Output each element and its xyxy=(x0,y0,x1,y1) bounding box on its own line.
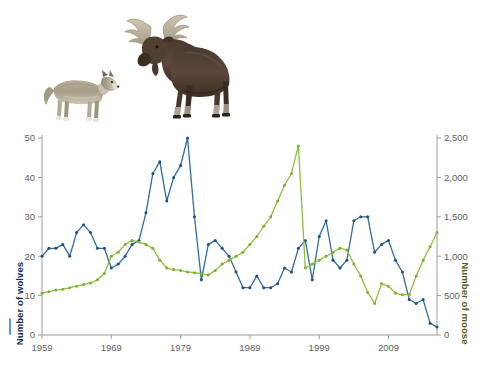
moose-data-point xyxy=(82,283,85,286)
wolves-data-point xyxy=(75,231,78,234)
wolves-data-point xyxy=(352,219,355,222)
right-tick-label: 500 xyxy=(444,290,460,301)
left-tick-label: 40 xyxy=(24,172,35,183)
moose-data-point xyxy=(394,292,397,295)
wolves-data-point xyxy=(283,267,286,270)
wolf-moose-population-figure: 0102030405005001,0001,5002,0002,50019591… xyxy=(0,0,485,368)
moose-data-point xyxy=(110,255,113,258)
x-tick-label: 1969 xyxy=(101,342,122,353)
wolves-data-point xyxy=(117,263,120,266)
wolves-data-point xyxy=(248,286,251,289)
wolves-data-point xyxy=(103,247,106,250)
wolves-data-point xyxy=(68,255,71,258)
wolves-data-point xyxy=(325,219,328,222)
wolves-data-point xyxy=(332,259,335,262)
wolves-data-point xyxy=(131,243,134,246)
wolves-data-point xyxy=(387,239,390,242)
moose-data-point xyxy=(401,293,404,296)
x-tick-label: 2009 xyxy=(378,342,399,353)
wolves-series-line xyxy=(42,138,437,327)
wolves-data-point xyxy=(214,239,217,242)
wolves-data-point xyxy=(276,282,279,285)
x-tick-label: 1989 xyxy=(239,342,260,353)
moose-data-point xyxy=(235,255,238,258)
wolves-data-point xyxy=(158,160,161,163)
moose-data-point xyxy=(54,289,57,292)
wolves-data-point xyxy=(228,255,231,258)
moose-data-point xyxy=(345,248,348,251)
moose-data-point xyxy=(269,215,272,218)
wolves-data-point xyxy=(338,267,341,270)
wolves-data-point xyxy=(318,235,321,238)
wolves-data-point xyxy=(359,215,362,218)
moose-data-point xyxy=(131,239,134,242)
right-tick-label: 2,000 xyxy=(444,172,468,183)
moose-data-point xyxy=(68,286,71,289)
wolves-data-point xyxy=(124,255,127,258)
wolves-data-point xyxy=(82,223,85,226)
moose-data-point xyxy=(241,251,244,254)
moose-data-point xyxy=(262,225,265,228)
moose-data-point xyxy=(387,285,390,288)
illustration-band xyxy=(0,0,485,130)
moose-data-point xyxy=(138,241,141,244)
moose-image xyxy=(117,5,239,127)
x-tick-label: 1959 xyxy=(31,342,52,353)
moose-data-point xyxy=(325,255,328,258)
moose-data-point xyxy=(332,251,335,254)
right-axis-title: Number of moose xyxy=(460,249,471,359)
moose-data-point xyxy=(117,251,120,254)
moose-data-point xyxy=(75,285,78,288)
wolves-data-point xyxy=(89,231,92,234)
right-tick-label: 2,500 xyxy=(444,132,468,143)
wolves-data-point xyxy=(151,172,154,175)
moose-data-point xyxy=(283,184,286,187)
wolves-data-point xyxy=(415,302,418,305)
wolves-data-point xyxy=(255,274,258,277)
wolves-data-point xyxy=(235,270,238,273)
wolves-data-point xyxy=(290,270,293,273)
moose-data-point xyxy=(151,247,154,250)
moose-data-point xyxy=(408,293,411,296)
wolves-data-point xyxy=(200,278,203,281)
series-group xyxy=(41,137,439,329)
moose-data-point xyxy=(255,235,258,238)
wolves-data-point xyxy=(110,267,113,270)
wolves-data-point xyxy=(408,298,411,301)
moose-data-point xyxy=(366,291,369,294)
wolves-data-point xyxy=(429,322,432,325)
moose-data-point xyxy=(276,200,279,203)
moose-data-point xyxy=(338,247,341,250)
moose-data-point xyxy=(248,243,251,246)
moose-data-point xyxy=(165,267,168,270)
moose-data-point xyxy=(311,263,314,266)
moose-data-point xyxy=(89,281,92,284)
left-tick-label: 0 xyxy=(30,329,35,340)
moose-data-point xyxy=(186,270,189,273)
left-tick-label: 50 xyxy=(24,132,35,143)
moose-data-point xyxy=(436,231,439,234)
wolves-legend-line-icon xyxy=(9,318,11,335)
moose-data-point xyxy=(103,272,106,275)
moose-data-point xyxy=(172,268,175,271)
axes-group: 0102030405005001,0001,5002,0002,50019591… xyxy=(24,132,467,353)
moose-data-point xyxy=(415,274,418,277)
moose-data-point xyxy=(124,243,127,246)
wolves-data-point xyxy=(186,137,189,140)
moose-data-point xyxy=(290,172,293,175)
wolves-data-point xyxy=(394,259,397,262)
wolves-data-point xyxy=(380,243,383,246)
x-tick-label: 1999 xyxy=(309,342,330,353)
moose-data-point xyxy=(221,263,224,266)
right-tick-label: 0 xyxy=(444,329,449,340)
wolves-data-point xyxy=(401,270,404,273)
moose-data-point xyxy=(200,272,203,275)
left-tick-label: 10 xyxy=(24,290,35,301)
wolves-data-point xyxy=(221,247,224,250)
wolves-data-point xyxy=(179,164,182,167)
wolves-data-point xyxy=(422,298,425,301)
wolves-data-point xyxy=(241,286,244,289)
wolves-data-point xyxy=(269,286,272,289)
wolves-data-point xyxy=(96,247,99,250)
moose-data-point xyxy=(47,290,50,293)
